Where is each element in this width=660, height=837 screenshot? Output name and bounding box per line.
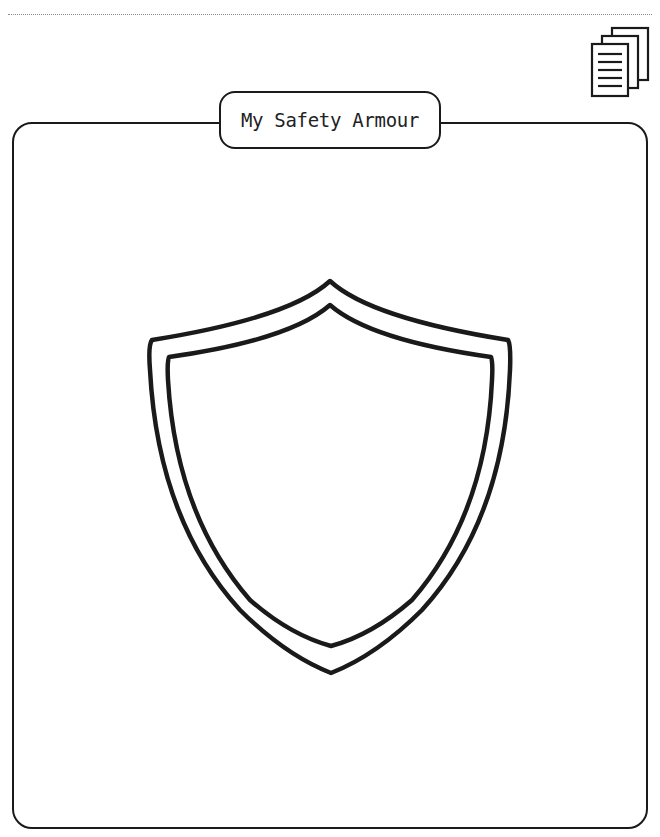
documents-stack-icon <box>588 26 650 98</box>
page-title: My Safety Armour <box>241 109 419 131</box>
top-dotted-rule <box>8 14 652 15</box>
title-label: My Safety Armour <box>219 91 441 149</box>
armour-drawing-area[interactable] <box>12 122 648 829</box>
